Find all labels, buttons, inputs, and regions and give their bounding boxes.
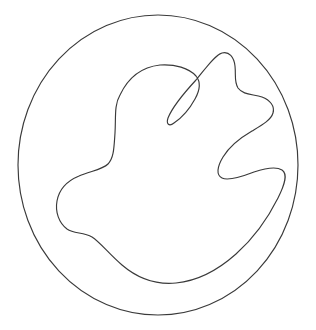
line-drawing-svg xyxy=(0,0,316,330)
canvas-background xyxy=(0,0,316,330)
figure-canvas xyxy=(0,0,316,330)
